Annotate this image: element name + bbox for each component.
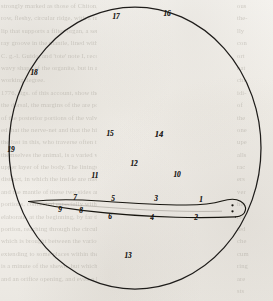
field-outline [9,7,261,289]
reference-label-3: 3 [154,195,158,203]
head-spot-upper [231,204,233,206]
reference-label-12: 12 [130,160,137,168]
reference-label-1: 1 [199,196,203,204]
reference-label-16: 16 [163,10,170,18]
reference-label-4: 4 [150,214,154,222]
reference-label-11: 11 [92,172,99,180]
microscope-field-circle [8,6,262,290]
reference-label-2: 2 [194,214,198,222]
reference-label-8: 8 [79,207,83,215]
reference-label-5: 5 [111,195,115,203]
reference-label-17: 17 [112,13,119,21]
reference-label-15: 15 [106,130,113,138]
reference-label-10: 10 [173,171,180,179]
reference-label-18: 18 [30,69,37,77]
reference-label-19: 19 [7,146,14,154]
scanned-page: strongly marked as those of Chiton, a ve… [0,0,273,301]
reference-label-6: 6 [108,213,112,221]
head-spot-lower [231,210,233,212]
reference-label-13: 13 [124,252,131,260]
reference-label-14: 14 [155,130,163,138]
reference-label-9: 9 [58,206,62,214]
reference-label-7: 7 [73,194,77,202]
